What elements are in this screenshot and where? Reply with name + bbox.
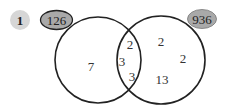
right-set-total-badge: 936 bbox=[188, 10, 217, 29]
right-only-value-bottom: 13 bbox=[156, 72, 169, 87]
index-badge-label: 1 bbox=[17, 13, 24, 28]
left-only-value: 7 bbox=[88, 59, 95, 74]
right-set-total: 936 bbox=[192, 12, 212, 27]
left-set-total: 126 bbox=[47, 13, 67, 28]
intersection-value-top: 2 bbox=[127, 37, 134, 52]
right-only-value-right: 2 bbox=[180, 51, 187, 66]
intersection-value-bottom: 3 bbox=[129, 69, 136, 84]
right-set-circle bbox=[117, 16, 205, 104]
right-only-value-top: 2 bbox=[158, 34, 165, 49]
venn-diagram: 1 126 936 7 2 3 3 2 2 13 bbox=[0, 0, 231, 109]
intersection-value-middle: 3 bbox=[119, 54, 126, 69]
figure-index-badge: 1 bbox=[10, 10, 30, 30]
left-set-total-badge: 126 bbox=[41, 11, 73, 30]
